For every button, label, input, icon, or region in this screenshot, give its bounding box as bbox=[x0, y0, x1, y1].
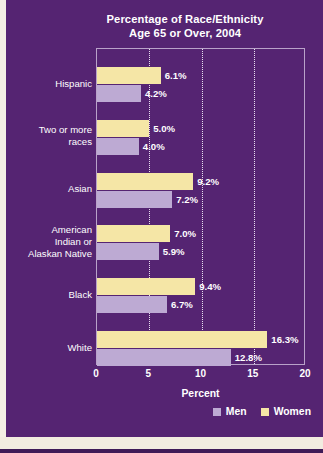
bar-men-2[interactable] bbox=[97, 191, 172, 208]
category-label-line: races bbox=[1, 136, 92, 148]
gridline-10 bbox=[202, 49, 203, 364]
category-label-line: American bbox=[1, 224, 92, 236]
x-tick-label-5: 5 bbox=[145, 368, 151, 379]
legend-label-men: Men bbox=[226, 407, 247, 417]
bar-value-label-women-4: 9.4% bbox=[199, 278, 221, 295]
chart-legend: Men Women bbox=[213, 407, 311, 417]
plot-area: 6.1%4.2%5.0%4.0%9.2%7.2%7.0%5.9%9.4%6.7%… bbox=[96, 48, 305, 365]
category-label-line: Black bbox=[1, 289, 92, 301]
chart-figure: Percentage of Race/Ethnicity Age 65 or O… bbox=[0, 0, 323, 453]
bar-men-4[interactable] bbox=[97, 296, 167, 313]
category-label-line: Asian bbox=[1, 183, 92, 195]
bar-value-label-men-3: 5.9% bbox=[163, 243, 185, 260]
category-label-line: Alaskan Native bbox=[1, 248, 92, 260]
bar-value-label-women-5: 16.3% bbox=[271, 331, 298, 348]
category-axis-labels: HispanicTwo or moreracesAsianAmericanInd… bbox=[0, 48, 96, 365]
category-label-2: Asian bbox=[1, 183, 96, 195]
bottom-rule bbox=[0, 449, 323, 453]
legend-label-women: Women bbox=[274, 407, 311, 417]
bottom-light-band bbox=[0, 437, 323, 449]
bar-women-1[interactable] bbox=[97, 120, 149, 137]
bar-value-label-women-2: 9.2% bbox=[197, 173, 219, 190]
bar-value-label-women-3: 7.0% bbox=[174, 225, 196, 242]
x-tick-label-0: 0 bbox=[93, 368, 99, 379]
x-axis-title: Percent bbox=[96, 388, 305, 399]
bar-value-label-women-0: 6.1% bbox=[165, 67, 187, 84]
x-tick-label-10: 10 bbox=[195, 368, 206, 379]
category-label-line: Hispanic bbox=[1, 78, 92, 90]
bar-men-1[interactable] bbox=[97, 138, 139, 155]
bar-value-label-men-2: 7.2% bbox=[176, 191, 198, 208]
category-label-0: Hispanic bbox=[1, 78, 96, 90]
chart-title-line-1: Percentage of Race/Ethnicity bbox=[60, 12, 310, 26]
bar-men-3[interactable] bbox=[97, 243, 159, 260]
bar-women-0[interactable] bbox=[97, 67, 161, 84]
x-tick-label-20: 20 bbox=[299, 368, 310, 379]
gridline-15 bbox=[254, 49, 255, 364]
bar-men-0[interactable] bbox=[97, 85, 141, 102]
legend-item-women[interactable]: Women bbox=[261, 407, 311, 417]
category-label-1: Two or moreraces bbox=[1, 124, 96, 148]
category-label-line: Two or more bbox=[1, 124, 92, 136]
bar-women-4[interactable] bbox=[97, 278, 195, 295]
category-label-line: Indian or bbox=[1, 236, 92, 248]
bar-value-label-men-1: 4.0% bbox=[143, 138, 165, 155]
legend-swatch-men-icon bbox=[213, 408, 221, 416]
legend-swatch-women-icon bbox=[261, 408, 269, 416]
category-label-4: Black bbox=[1, 289, 96, 301]
category-label-line: White bbox=[1, 342, 92, 354]
x-tick-label-15: 15 bbox=[247, 368, 258, 379]
chart-title-line-2: Age 65 or Over, 2004 bbox=[60, 26, 310, 40]
bar-value-label-men-4: 6.7% bbox=[171, 296, 193, 313]
bar-value-label-women-1: 5.0% bbox=[153, 120, 175, 137]
chart-title: Percentage of Race/Ethnicity Age 65 or O… bbox=[60, 12, 310, 40]
bar-women-2[interactable] bbox=[97, 173, 193, 190]
bar-value-label-men-0: 4.2% bbox=[145, 85, 167, 102]
bar-women-5[interactable] bbox=[97, 331, 267, 348]
bar-value-label-men-5: 12.8% bbox=[235, 349, 262, 366]
bar-women-3[interactable] bbox=[97, 225, 170, 242]
bar-men-5[interactable] bbox=[97, 349, 231, 366]
category-label-3: AmericanIndian orAlaskan Native bbox=[1, 224, 96, 260]
category-label-5: White bbox=[1, 342, 96, 354]
legend-item-men[interactable]: Men bbox=[213, 407, 247, 417]
